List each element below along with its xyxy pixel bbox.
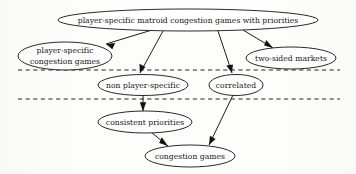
node-consistent-priorities[interactable]: consistent priorities [98,111,192,133]
node-label: player-specific matroid congestion games… [78,16,299,25]
node-non-player-specific[interactable]: non player-specific [98,75,188,96]
node-label-line-1: player-specific [37,46,94,55]
edge-corr-to-cg [209,95,233,145]
node-congestion-games[interactable]: congestion games [145,145,235,167]
arrow-head-icon [209,136,216,145]
edge-nps-to-cp [140,95,146,111]
arrow-head-icon [226,64,233,73]
edge-cp-to-cg [151,132,168,146]
node-group: player-specific matroid congestion games… [18,9,336,167]
arrow-head-icon [106,43,115,49]
diagram-canvas: player-specific matroid congestion games… [0,0,356,174]
node-correlated[interactable]: correlated [209,75,263,96]
arrow-head-icon [159,137,168,146]
node-label: consistent priorities [106,118,184,127]
edge-psmcgp-to-tsm [243,30,273,48]
node-player-specific-matroid-congestion-games-with-priorities[interactable]: player-specific matroid congestion games… [58,9,318,31]
node-two-sided-markets[interactable]: two-sided markets [246,47,336,69]
node-player-specific-congestion-games[interactable]: player-specific congestion games [18,42,112,70]
arrow-head-icon [264,40,273,48]
edge-line [106,30,152,44]
node-label: correlated [216,81,257,90]
edge-psmcgp-to-nps [139,31,163,73]
node-label: two-sided markets [255,54,327,63]
arrow-head-icon [140,102,146,111]
hierarchy-diagram-svg: player-specific matroid congestion games… [0,0,356,174]
edge-psmcgp-to-pscg [106,30,152,49]
node-label: congestion games [155,152,225,161]
node-label-line-2: congestion games [30,57,100,66]
node-label: non player-specific [106,81,180,90]
edge-psmcgp-to-corr [218,31,233,73]
